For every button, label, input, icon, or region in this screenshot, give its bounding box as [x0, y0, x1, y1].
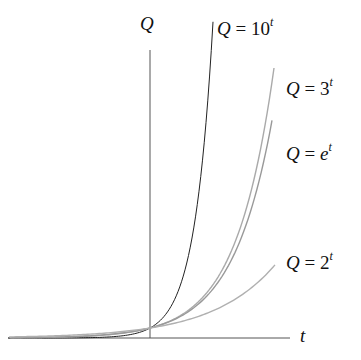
- chart-canvas: [0, 0, 361, 360]
- y-axis-label: Q: [140, 13, 154, 35]
- curve-et: [11, 120, 272, 337]
- curve-3t: [10, 68, 274, 338]
- x-axis-label: t: [300, 325, 305, 347]
- curve-2t: [9, 265, 275, 337]
- label-3t: Q = 3t: [286, 78, 333, 100]
- label-et: Q = et: [286, 143, 332, 165]
- label-2t: Q = 2t: [286, 252, 333, 274]
- curve-10t: [8, 22, 213, 338]
- label-10t: Q = 10t: [217, 18, 273, 40]
